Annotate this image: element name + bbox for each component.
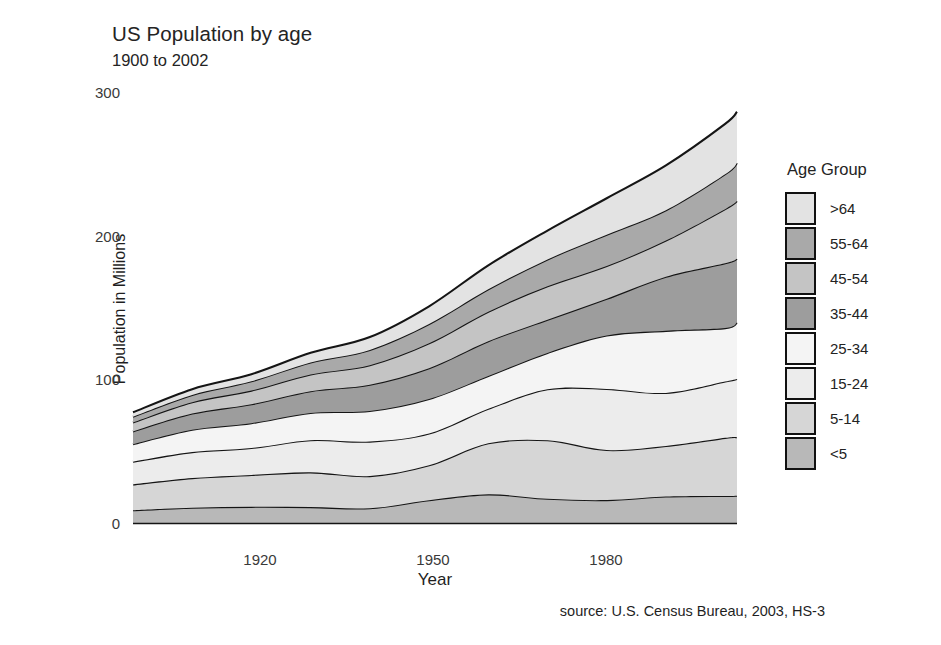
legend-item[interactable]: 55-64 (785, 226, 868, 261)
chart-subtitle: 1900 to 2002 (112, 51, 208, 70)
area-boundary-<5 (133, 494, 737, 510)
area-band->64 (133, 112, 737, 417)
legend-swatch (785, 437, 816, 470)
area-boundary-35-44 (133, 259, 737, 432)
area-boundary->64 (133, 112, 737, 413)
area-boundary-25-34 (133, 323, 737, 445)
x-tick-label-1980: 1980 (566, 551, 646, 568)
area-band-15-24 (133, 379, 737, 484)
legend-item-label: <5 (830, 445, 847, 462)
x-tick-label-1920: 1920 (220, 551, 300, 568)
legend-item-label: >64 (830, 200, 855, 217)
legend-item-label: 15-24 (830, 375, 868, 392)
legend-swatch (785, 262, 816, 295)
legend-item[interactable]: <5 (785, 436, 868, 471)
source-note: source: U.S. Census Bureau, 2003, HS-3 (425, 603, 825, 619)
legend-title: Age Group (787, 160, 868, 179)
legend: Age Group >6455-6445-5435-4425-3415-245-… (785, 160, 868, 471)
legend-item-label: 45-54 (830, 270, 868, 287)
area-boundary-55-64 (133, 163, 737, 417)
x-axis-title: Year (395, 570, 475, 590)
area-band-45-54 (133, 201, 737, 431)
legend-item[interactable]: 45-54 (785, 261, 868, 296)
y-axis-title: Population in Millions (111, 179, 129, 439)
legend-swatch (785, 192, 816, 225)
legend-swatch (785, 227, 816, 260)
area-boundary-45-54 (133, 201, 737, 422)
legend-item[interactable]: 15-24 (785, 366, 868, 401)
legend-item[interactable]: >64 (785, 191, 868, 226)
legend-swatch (785, 367, 816, 400)
area-boundary-5-14 (133, 437, 737, 484)
legend-item-label: 5-14 (830, 410, 860, 427)
area-band-<5 (133, 494, 737, 523)
legend-swatch (785, 332, 816, 365)
page-title: US Population by age (112, 22, 312, 46)
area-band-5-14 (133, 437, 737, 510)
legend-item-label: 35-44 (830, 305, 868, 322)
legend-item[interactable]: 35-44 (785, 296, 868, 331)
area-band-25-34 (133, 323, 737, 462)
y-tick-label-200: 200 (60, 228, 120, 245)
area-band-55-64 (133, 163, 737, 423)
y-tick-label-300: 300 (60, 84, 120, 101)
legend-item-label: 25-34 (830, 340, 868, 357)
legend-swatch (785, 297, 816, 330)
y-tick-label-100: 100 (60, 371, 120, 388)
legend-item[interactable]: 5-14 (785, 401, 868, 436)
legend-item[interactable]: 25-34 (785, 331, 868, 366)
area-band-35-44 (133, 259, 737, 444)
legend-swatch (785, 402, 816, 435)
legend-item-label: 55-64 (830, 235, 868, 252)
area-boundary-15-24 (133, 379, 737, 462)
x-tick-label-1950: 1950 (393, 551, 473, 568)
y-tick-label-0: 0 (60, 515, 120, 532)
